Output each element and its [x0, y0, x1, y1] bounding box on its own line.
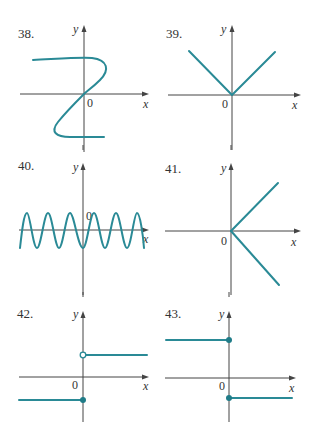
- origin-label: 0: [72, 378, 78, 392]
- closed-dot-icon: [226, 337, 232, 343]
- open-circle-icon: [80, 352, 86, 358]
- y-axis-arrow-icon: [230, 25, 235, 32]
- y-axis-arrow-icon: [81, 163, 86, 170]
- closed-dot-icon: [80, 397, 86, 403]
- y-axis-label: y: [72, 22, 79, 36]
- closed-dot-icon: [226, 395, 232, 401]
- x-axis-arrow-icon: [289, 376, 296, 381]
- s-curve: [33, 58, 106, 137]
- graph-number: 42.: [17, 306, 33, 321]
- y-axis-arrow-icon: [227, 311, 232, 318]
- graph-number: 39.: [166, 26, 182, 41]
- x-axis-label: x: [288, 381, 295, 395]
- graph-41: 41. y x 0: [165, 145, 301, 295]
- y-axis-label: y: [218, 307, 225, 321]
- x-axis-label: x: [142, 97, 149, 111]
- origin-label: 0: [87, 96, 93, 110]
- y-axis-arrow-icon: [81, 311, 86, 318]
- x-axis-arrow-icon: [294, 93, 301, 98]
- y-axis-label: y: [220, 22, 227, 36]
- graph-number: 38.: [18, 26, 34, 41]
- graph-40: 40. y x 0: [18, 145, 149, 295]
- y-axis-label: y: [220, 161, 227, 175]
- x-axis-arrow-icon: [294, 229, 301, 234]
- y-axis-arrow-icon: [82, 25, 87, 32]
- graph-38: 38. y x 0: [18, 22, 149, 152]
- graph-39: 39. y x 0: [166, 22, 301, 150]
- upper-ray: [231, 183, 278, 231]
- origin-label: 0: [221, 234, 227, 248]
- origin-label: 0: [219, 379, 225, 393]
- x-axis-label: x: [291, 98, 298, 112]
- graph-43: 43. y x 0: [165, 292, 296, 422]
- lower-ray: [231, 231, 279, 285]
- graph-number: 43.: [165, 306, 181, 321]
- y-axis-arrow-icon: [229, 163, 234, 170]
- y-axis-label: y: [72, 160, 79, 174]
- x-axis-label: x: [142, 379, 149, 393]
- x-axis-label: x: [290, 235, 297, 249]
- graph-number: 41.: [165, 161, 181, 176]
- graphs-figure: 38. y x 0 39. y x 0 40. y x 0 41.: [0, 0, 314, 442]
- graph-42: 42. y x 0: [17, 292, 149, 422]
- origin-label: 0: [222, 97, 228, 111]
- graph-number: 40.: [18, 158, 34, 173]
- x-axis-arrow-icon: [142, 92, 149, 97]
- y-axis-label: y: [72, 307, 79, 321]
